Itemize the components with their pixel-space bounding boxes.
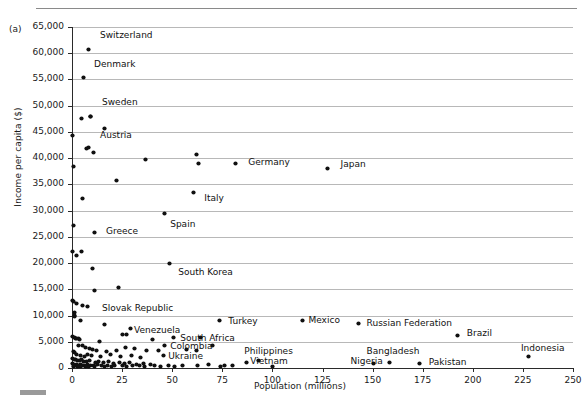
- data-point: [121, 333, 124, 336]
- gridline: [72, 53, 573, 54]
- data-point: [84, 346, 87, 349]
- data-point: [86, 305, 89, 308]
- point-label: Sweden: [102, 97, 138, 107]
- y-tick-label: 40,000: [20, 152, 64, 162]
- data-point: [124, 346, 127, 349]
- data-point: [88, 359, 91, 362]
- y-tick-label: 50,000: [20, 100, 64, 110]
- y-tick-label: 25,000: [20, 231, 64, 241]
- data-point: [73, 315, 76, 318]
- point-label: Spain: [170, 219, 195, 229]
- data-point: [98, 340, 101, 343]
- data-point: [89, 115, 92, 118]
- scatter-chart: 05,00010,00015,00020,00025,00030,00035,0…: [0, 0, 583, 403]
- data-point: [326, 167, 329, 170]
- x-tick-label: 0: [52, 375, 92, 385]
- point-label: Colombia: [170, 341, 212, 351]
- point-label: Germany: [248, 157, 289, 167]
- data-point: [75, 254, 78, 257]
- point-label: Turkey: [228, 316, 257, 326]
- data-point: [90, 354, 93, 357]
- data-point: [456, 334, 459, 337]
- data-point: [87, 48, 90, 51]
- point-label: Venezuela: [134, 325, 180, 335]
- data-point: [231, 364, 234, 367]
- data-point: [125, 365, 128, 368]
- y-tick-label: 5,000: [20, 336, 64, 346]
- y-tick-label: 10,000: [20, 310, 64, 320]
- data-point: [80, 117, 83, 120]
- data-point: [130, 354, 133, 357]
- data-point: [151, 338, 154, 341]
- point-label: Philippines: [244, 346, 293, 356]
- x-axis-title: Population (millions): [180, 381, 420, 391]
- data-point: [357, 322, 360, 325]
- data-point: [79, 319, 82, 322]
- data-point: [72, 224, 75, 227]
- data-point: [115, 349, 118, 352]
- data-point: [131, 364, 134, 367]
- data-point: [167, 364, 170, 367]
- data-point: [153, 364, 156, 367]
- point-label: Austria: [100, 130, 132, 140]
- gridline: [72, 237, 573, 238]
- point-label: Brazil: [467, 328, 492, 338]
- point-label: Slovak Republic: [102, 303, 173, 313]
- data-point: [105, 350, 108, 353]
- data-point: [106, 364, 109, 367]
- data-point: [91, 348, 94, 351]
- point-label: South Korea: [178, 267, 233, 277]
- y-tick-label: 20,000: [20, 257, 64, 267]
- data-point: [418, 362, 421, 365]
- data-point: [119, 355, 122, 358]
- data-point: [219, 365, 222, 368]
- data-point: [245, 361, 248, 364]
- data-point: [87, 146, 90, 149]
- data-point: [138, 364, 141, 367]
- gridline: [72, 184, 573, 185]
- data-point: [121, 364, 124, 367]
- data-point: [93, 231, 96, 234]
- gridline: [72, 158, 573, 159]
- data-point: [75, 353, 78, 356]
- data-point: [195, 153, 198, 156]
- point-label: Ukraine: [168, 351, 203, 361]
- y-tick-label: 30,000: [20, 205, 64, 215]
- point-label: Bangladesh: [367, 346, 420, 356]
- x-tick-label: 200: [453, 375, 493, 385]
- point-label: Vietnam: [250, 356, 288, 366]
- data-point: [157, 349, 160, 352]
- data-point: [71, 134, 74, 137]
- data-point: [103, 365, 106, 368]
- data-point: [78, 338, 81, 341]
- data-point: [159, 365, 162, 368]
- data-point: [93, 289, 96, 292]
- point-label: Pakistan: [429, 357, 467, 367]
- point-label: Switzerland: [100, 30, 153, 40]
- data-point: [97, 360, 100, 363]
- gridline: [72, 132, 573, 133]
- data-point: [163, 344, 166, 347]
- data-point: [218, 319, 221, 322]
- data-point: [133, 347, 136, 350]
- data-point: [96, 363, 99, 366]
- data-point: [77, 344, 80, 347]
- data-point: [91, 267, 94, 270]
- data-point: [162, 354, 165, 357]
- data-point: [72, 165, 75, 168]
- data-point: [192, 191, 195, 194]
- point-label: Italy: [204, 193, 224, 203]
- y-axis-title: Income per capita ($): [13, 77, 23, 237]
- data-point: [79, 354, 82, 357]
- y-tick-label: 0: [20, 362, 64, 372]
- data-point: [86, 353, 89, 356]
- y-tick-label: 60,000: [20, 47, 64, 57]
- point-label: Nigeria: [351, 356, 383, 366]
- data-point: [144, 158, 147, 161]
- y-tick-label: 65,000: [20, 21, 64, 31]
- x-tick-mark: [573, 368, 574, 372]
- data-point: [172, 336, 175, 339]
- data-point: [139, 356, 142, 359]
- data-point: [83, 355, 86, 358]
- data-point: [109, 353, 112, 356]
